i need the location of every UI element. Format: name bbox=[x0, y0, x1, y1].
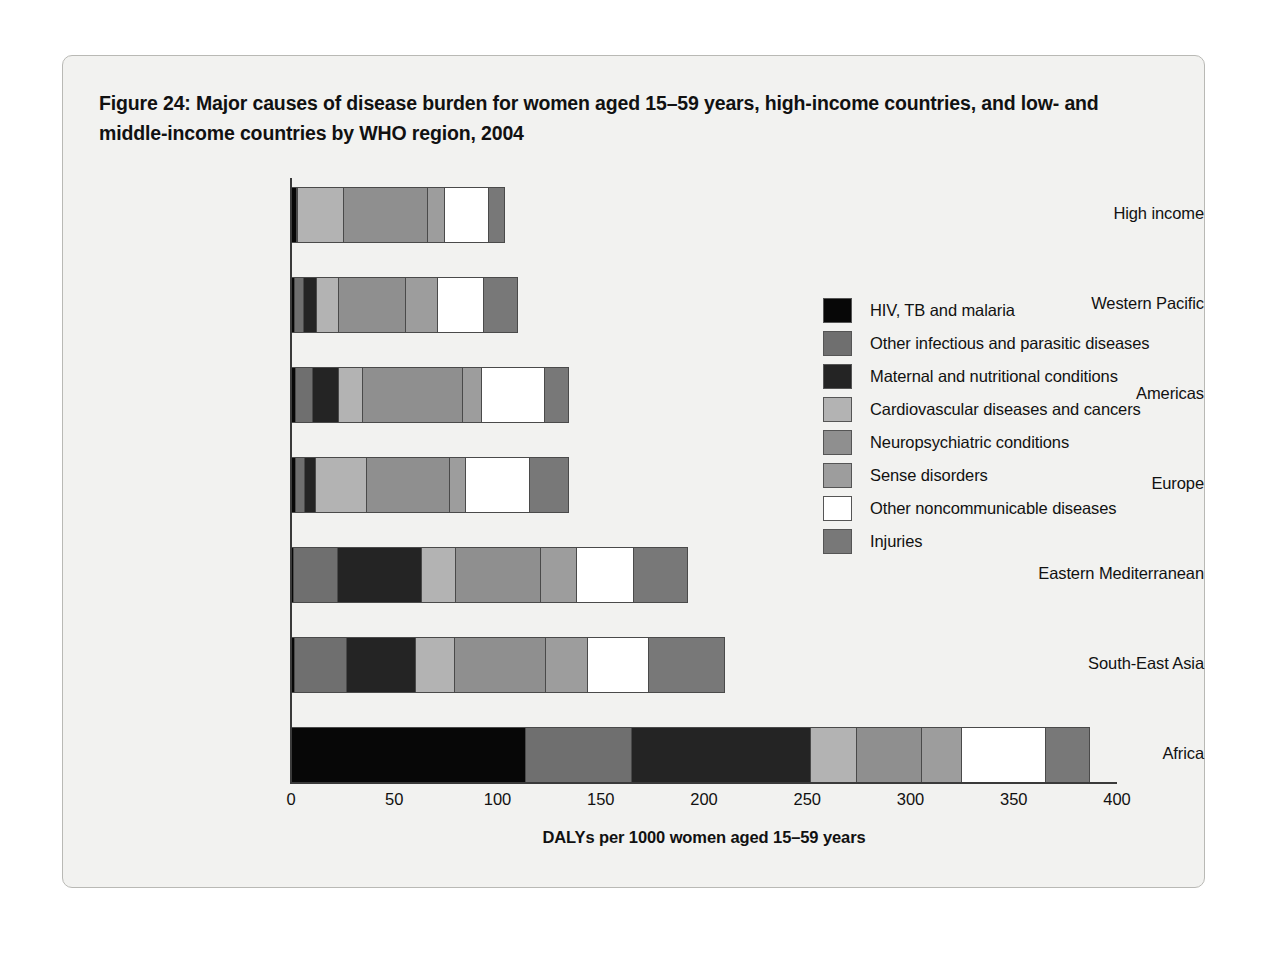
legend-label: HIV, TB and malaria bbox=[870, 301, 1015, 320]
bar-segment bbox=[338, 367, 363, 423]
bar-segment bbox=[297, 187, 344, 243]
x-tick-label-200: 200 bbox=[690, 790, 718, 809]
bar-segment bbox=[488, 187, 505, 243]
legend-swatch-icon bbox=[823, 496, 852, 521]
bar-segment bbox=[961, 727, 1046, 783]
legend-label: Sense disorders bbox=[870, 466, 988, 485]
bar-segment bbox=[315, 457, 367, 513]
bar-segment bbox=[338, 277, 406, 333]
legend-item[interactable]: Neuropsychiatric conditions bbox=[823, 426, 1150, 459]
bar-row bbox=[291, 547, 688, 603]
category-label-5: South-East Asia bbox=[984, 654, 1204, 673]
bar-segment bbox=[576, 547, 634, 603]
bar-segment bbox=[1045, 727, 1090, 783]
category-label-0: High income bbox=[984, 204, 1204, 223]
bar-segment bbox=[405, 277, 438, 333]
legend-swatch-icon bbox=[823, 331, 852, 356]
legend-item[interactable]: Cardiovascular diseases and cancers bbox=[823, 393, 1150, 426]
y-axis-line bbox=[290, 178, 292, 784]
legend-item[interactable]: Other infectious and parasitic diseases bbox=[823, 327, 1150, 360]
bar-segment bbox=[294, 637, 348, 693]
bar-segment bbox=[633, 547, 689, 603]
x-axis-title: DALYs per 1000 women aged 15–59 years bbox=[291, 828, 1117, 847]
bar-segment bbox=[481, 367, 545, 423]
legend-item[interactable]: Maternal and nutritional conditions bbox=[823, 360, 1150, 393]
legend-swatch-icon bbox=[823, 364, 852, 389]
bar-segment bbox=[483, 277, 518, 333]
legend-item[interactable]: HIV, TB and malaria bbox=[823, 294, 1150, 327]
bar-segment bbox=[293, 547, 338, 603]
x-tick-label-300: 300 bbox=[897, 790, 925, 809]
bar-segment bbox=[465, 457, 531, 513]
legend-label: Injuries bbox=[870, 532, 922, 551]
category-label-4: Eastern Mediterranean bbox=[984, 564, 1204, 583]
bar-segment bbox=[810, 727, 857, 783]
x-tick-label-250: 250 bbox=[793, 790, 821, 809]
legend-swatch-icon bbox=[823, 463, 852, 488]
bar-segment bbox=[525, 727, 632, 783]
bar-segment bbox=[337, 547, 422, 603]
legend-swatch-icon bbox=[823, 430, 852, 455]
bar-segment bbox=[362, 367, 463, 423]
x-tick-label-100: 100 bbox=[484, 790, 512, 809]
legend-label: Maternal and nutritional conditions bbox=[870, 367, 1118, 386]
x-tick-label-150: 150 bbox=[587, 790, 615, 809]
bar-segment bbox=[631, 727, 811, 783]
bar-segment bbox=[529, 457, 568, 513]
figure-card: Figure 24: Major causes of disease burde… bbox=[62, 55, 1205, 888]
bar-row bbox=[291, 637, 725, 693]
chart-plot-area: High incomeWestern PacificAmericasEurope… bbox=[63, 56, 1204, 887]
legend-swatch-icon bbox=[823, 529, 852, 554]
x-tick-label-400: 400 bbox=[1103, 790, 1131, 809]
bar-segment bbox=[415, 637, 454, 693]
bar-segment bbox=[316, 277, 339, 333]
bar-segment bbox=[921, 727, 962, 783]
legend-swatch-icon bbox=[823, 397, 852, 422]
bar-segment bbox=[449, 457, 466, 513]
bar-segment bbox=[648, 637, 724, 693]
bar-segment bbox=[544, 367, 569, 423]
x-tick-label-350: 350 bbox=[1000, 790, 1028, 809]
bar-segment bbox=[295, 367, 314, 423]
bar-row bbox=[291, 187, 505, 243]
bar-row bbox=[291, 457, 569, 513]
legend-label: Neuropsychiatric conditions bbox=[870, 433, 1069, 452]
bar-segment bbox=[540, 547, 577, 603]
legend-label: Other infectious and parasitic diseases bbox=[870, 334, 1150, 353]
bar-segment bbox=[312, 367, 339, 423]
legend-swatch-icon bbox=[823, 298, 852, 323]
bar-segment bbox=[856, 727, 922, 783]
bar-row bbox=[291, 727, 1090, 783]
bar-segment bbox=[366, 457, 451, 513]
bar-row bbox=[291, 367, 569, 423]
bar-segment bbox=[421, 547, 456, 603]
bar-segment bbox=[455, 547, 542, 603]
legend-label: Cardiovascular diseases and cancers bbox=[870, 400, 1141, 419]
legend-item[interactable]: Other noncommunicable diseases bbox=[823, 492, 1150, 525]
bar-segment bbox=[343, 187, 428, 243]
bar-segment bbox=[587, 637, 649, 693]
legend-item[interactable]: Injuries bbox=[823, 525, 1150, 558]
bar-segment bbox=[427, 187, 446, 243]
x-tick-label-50: 50 bbox=[385, 790, 403, 809]
x-tick-label-0: 0 bbox=[286, 790, 295, 809]
bar-segment bbox=[437, 277, 484, 333]
bar-row bbox=[291, 277, 518, 333]
legend-item[interactable]: Sense disorders bbox=[823, 459, 1150, 492]
chart-legend: HIV, TB and malariaOther infectious and … bbox=[823, 294, 1150, 558]
bar-segment bbox=[545, 637, 588, 693]
bar-segment bbox=[462, 367, 483, 423]
legend-label: Other noncommunicable diseases bbox=[870, 499, 1116, 518]
bar-segment bbox=[444, 187, 489, 243]
bar-segment bbox=[346, 637, 416, 693]
bar-segment bbox=[291, 727, 526, 783]
bar-segment bbox=[454, 637, 547, 693]
x-axis-line bbox=[291, 782, 1117, 784]
